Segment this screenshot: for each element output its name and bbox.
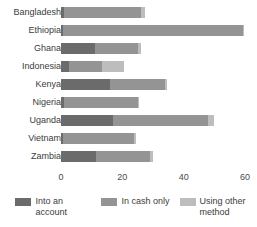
x-tick-label: 20 (117, 172, 127, 183)
bar-segment-3 (150, 151, 153, 162)
bar-stack (61, 133, 136, 144)
bar-track (61, 79, 253, 90)
bar-segment-2 (110, 79, 165, 90)
bar-stack (61, 79, 167, 90)
bar-segment-1 (61, 43, 95, 54)
category-label: Vietnam (0, 132, 61, 144)
bar-stack (61, 7, 145, 18)
bar-stack (61, 151, 153, 162)
bar-stack (61, 25, 244, 36)
bar-stack (61, 61, 124, 72)
legend-swatch-icon (15, 198, 31, 206)
bar-track (61, 151, 253, 162)
plot-area: BangladeshEthiopiaGhanaIndonesiaKenyaNig… (0, 4, 257, 172)
bar-segment-2 (113, 115, 208, 126)
bar-row: Ghana (0, 40, 257, 58)
bar-segment-2 (63, 25, 242, 36)
x-tick-label: 40 (179, 172, 189, 183)
bar-segment-2 (96, 151, 150, 162)
bar-row: Bangladesh (0, 4, 257, 22)
category-label: Ghana (0, 42, 61, 54)
bar-segment-3 (138, 97, 140, 108)
bar-segment-3 (102, 61, 123, 72)
bar-segment-2 (64, 97, 138, 108)
bar-row: Indonesia (0, 58, 257, 76)
bar-segment-3 (138, 43, 141, 54)
bar-row: Zambia (0, 148, 257, 166)
bar-segment-3 (134, 133, 136, 144)
bar-segment-2 (64, 7, 141, 18)
bar-segment-2 (63, 133, 134, 144)
bar-track (61, 115, 253, 126)
bar-row: Vietnam (0, 130, 257, 148)
legend-label: In cash only (121, 196, 169, 207)
bar-row: Uganda (0, 112, 257, 130)
bar-segment-1 (61, 79, 110, 90)
bar-segment-3 (208, 115, 214, 126)
bar-stack (61, 115, 214, 126)
bar-row: Nigeria (0, 94, 257, 112)
category-label: Zambia (0, 150, 61, 162)
bar-track (61, 97, 253, 108)
category-label: Kenya (0, 78, 61, 90)
x-axis: 0204060 (0, 170, 257, 188)
legend-item[interactable]: Using other method (180, 196, 248, 218)
bar-segment-3 (243, 25, 245, 36)
bar-track (61, 25, 253, 36)
bar-track (61, 133, 253, 144)
legend-label: Using other method (200, 196, 248, 218)
bar-track (61, 43, 253, 54)
category-label: Indonesia (0, 60, 61, 72)
category-label: Uganda (0, 114, 61, 126)
bar-track (61, 7, 253, 18)
category-label: Ethiopia (0, 24, 61, 36)
x-tick-label: 0 (58, 172, 63, 183)
bar-segment-1 (61, 61, 69, 72)
bar-row: Ethiopia (0, 22, 257, 40)
stacked-bar-chart: BangladeshEthiopiaGhanaIndonesiaKenyaNig… (0, 0, 257, 227)
bar-segment-2 (69, 61, 103, 72)
bar-segment-3 (165, 79, 167, 90)
legend-swatch-icon (101, 198, 117, 206)
bar-segment-2 (95, 43, 138, 54)
bar-stack (61, 97, 139, 108)
bar-segment-1 (61, 151, 96, 162)
bar-segment-1 (61, 115, 113, 126)
bar-row: Kenya (0, 76, 257, 94)
category-label: Nigeria (0, 96, 61, 108)
bar-stack (61, 43, 141, 54)
legend-swatch-icon (180, 198, 196, 206)
bar-segment-3 (141, 7, 146, 18)
legend-item[interactable]: Into an account (15, 196, 91, 218)
chart-legend: Into an accountIn cash onlyUsing other m… (0, 196, 257, 227)
bar-track (61, 61, 253, 72)
legend-item[interactable]: In cash only (101, 196, 169, 207)
category-label: Bangladesh (0, 6, 61, 18)
legend-label: Into an account (35, 196, 91, 218)
x-tick-label: 60 (240, 172, 250, 183)
